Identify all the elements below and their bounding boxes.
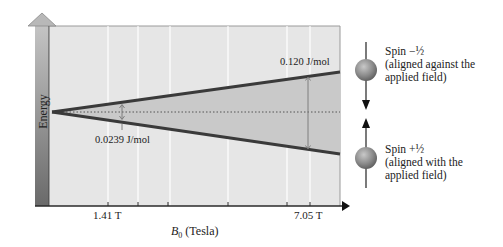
spin-plus-half-icon xyxy=(355,118,377,188)
tick-label-7-05: 7.05 T xyxy=(294,209,323,221)
x-axis-label: B0 (Tesla) xyxy=(171,224,218,240)
spin-plus-half-desc-1: (aligned with the xyxy=(385,156,463,169)
energy-splitting-diagram xyxy=(0,0,503,247)
x-axis-label-sub: 0 xyxy=(178,231,182,240)
spin-minus-half-desc-2: applied field) xyxy=(385,71,475,84)
spin-minus-half-label: Spin −½ (aligned against the applied fie… xyxy=(385,45,475,84)
x-axis-label-unit: (Tesla) xyxy=(185,224,218,238)
spin-minus-half-title: Spin −½ xyxy=(385,45,475,58)
spin-minus-half-desc-1: (aligned against the xyxy=(385,58,475,71)
spin-plus-half-desc-2: applied field) xyxy=(385,169,463,182)
small-gap-label: 0.0239 J/mol xyxy=(95,134,150,145)
y-axis-label: Energy xyxy=(36,92,51,132)
spin-plus-half-title: Spin +½ xyxy=(385,143,463,156)
large-gap-label: 0.120 J/mol xyxy=(280,56,330,67)
spin-minus-half-icon xyxy=(355,42,377,110)
spin-plus-half-label: Spin +½ (aligned with the applied field) xyxy=(385,143,463,182)
tick-label-1-41: 1.41 T xyxy=(93,209,122,221)
